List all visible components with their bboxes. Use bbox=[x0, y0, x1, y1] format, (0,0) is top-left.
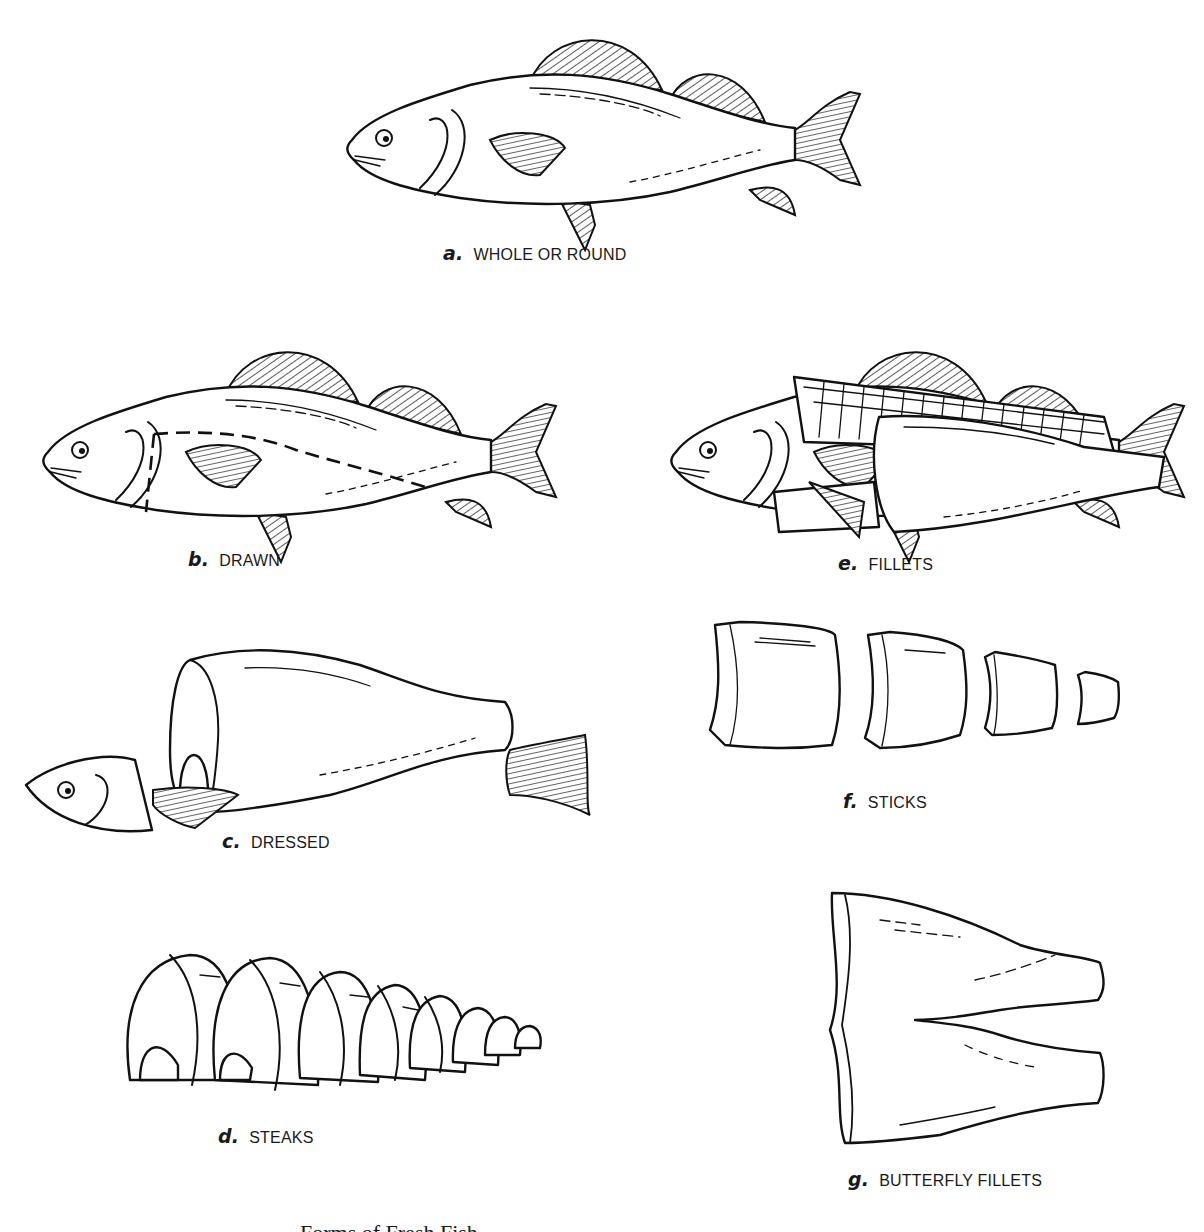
butterfly-fillets-illustration bbox=[800, 885, 1120, 1145]
figure-caption: Forms of Fresh Fish bbox=[300, 1222, 478, 1232]
panel-letter: f. bbox=[843, 790, 858, 812]
panel-label: WHOLE OR ROUND bbox=[473, 246, 626, 264]
panel-letter: g. bbox=[848, 1168, 869, 1190]
panel-label: STICKS bbox=[868, 794, 927, 812]
label-sticks: f. STICKS bbox=[843, 790, 927, 812]
fillets-illustration bbox=[664, 322, 1204, 552]
label-dressed: c. DRESSED bbox=[222, 830, 330, 852]
drawn-fish-illustration bbox=[36, 322, 566, 552]
panel-letter: c. bbox=[222, 830, 241, 852]
panel-letter: b. bbox=[188, 548, 209, 570]
panel-label: FILLETS bbox=[869, 556, 934, 574]
label-butterfly-fillets: g. BUTTERFLY FILLETS bbox=[848, 1168, 1042, 1190]
label-steaks: d. STEAKS bbox=[218, 1125, 314, 1147]
label-whole-or-round: a. WHOLE OR ROUND bbox=[443, 242, 626, 264]
panel-letter: d. bbox=[218, 1125, 239, 1147]
dressed-fish-illustration bbox=[0, 590, 620, 830]
steaks-illustration bbox=[120, 950, 550, 1100]
panel-letter: e. bbox=[838, 552, 859, 574]
panel-letter: a. bbox=[443, 242, 463, 264]
panel-label: DRAWN bbox=[219, 552, 280, 570]
label-fillets: e. FILLETS bbox=[838, 552, 933, 574]
sticks-illustration bbox=[700, 620, 1100, 740]
panel-label: DRESSED bbox=[251, 834, 330, 852]
label-drawn: b. DRAWN bbox=[188, 548, 280, 570]
panel-label: BUTTERFLY FILLETS bbox=[879, 1172, 1042, 1190]
panel-label: STEAKS bbox=[249, 1129, 313, 1147]
whole-fish-illustration bbox=[340, 10, 870, 240]
